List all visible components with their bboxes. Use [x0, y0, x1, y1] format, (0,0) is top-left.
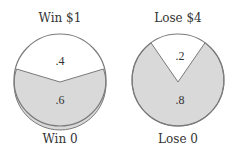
- left-lower-value: .6: [56, 93, 65, 107]
- right-upper-value: .2: [176, 49, 185, 63]
- right-lower-value: .8: [176, 93, 185, 107]
- spinner-diagrams: .4 .6 .2 .8: [0, 0, 235, 151]
- left-spinner: .4 .6: [14, 34, 106, 130]
- left-upper-value: .4: [56, 54, 65, 68]
- right-spinner: .2 .8: [132, 34, 224, 126]
